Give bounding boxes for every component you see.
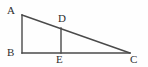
vertex-label-d: D [58, 13, 66, 24]
vertex-label-e: E [56, 54, 63, 65]
vertex-label-a: A [7, 5, 15, 16]
vertex-label-b: B [7, 47, 14, 58]
vertex-label-c: C [130, 54, 137, 65]
segment-ac-hypotenuse [22, 15, 130, 53]
triangle-diagram-svg [0, 0, 148, 67]
geometry-figure: A B C D E [0, 0, 148, 67]
